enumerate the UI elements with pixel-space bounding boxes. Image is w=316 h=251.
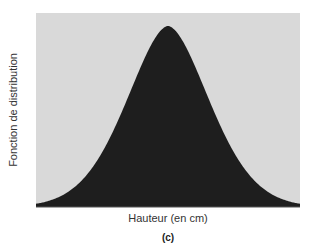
x-axis-label: Hauteur (en cm) — [128, 212, 207, 224]
figure-caption: (c) — [162, 232, 174, 243]
y-axis-label: Fonction de distribution — [7, 53, 19, 167]
